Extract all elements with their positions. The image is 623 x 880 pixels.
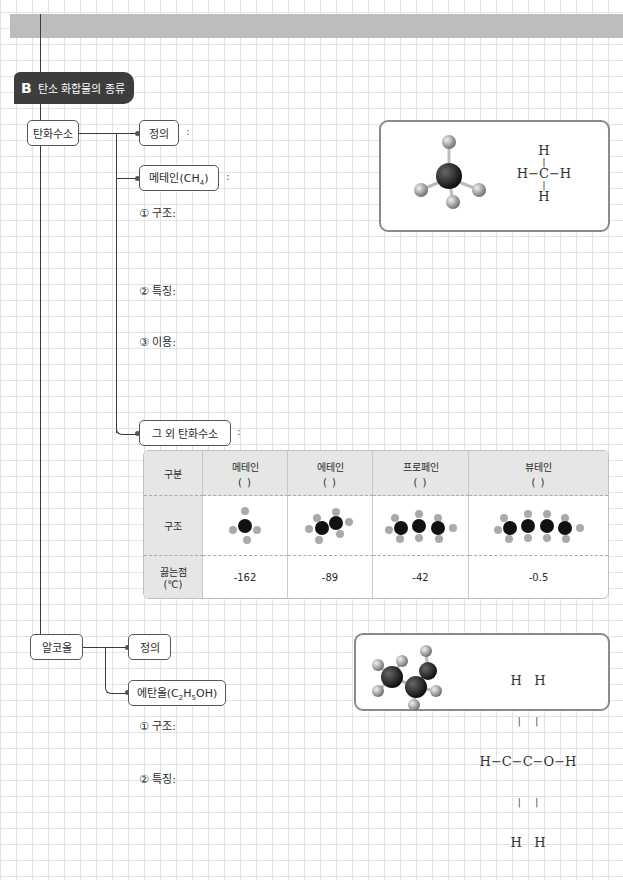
ethanol-ball-stick-icon <box>364 635 464 711</box>
node-other-label: 그 외 탄화수소 <box>152 425 219 441</box>
colon: : <box>186 125 190 138</box>
node-hydrocarbon: 탄화수소 <box>27 120 79 146</box>
colon: : <box>237 425 241 438</box>
node-definition-label: 정의 <box>149 125 169 141</box>
table-col-ethane: 에테인( ) <box>288 451 373 496</box>
node-hydrocarbon-label: 탄화수소 <box>33 125 73 141</box>
butane-model-icon <box>469 496 608 556</box>
connector-curve <box>105 647 128 694</box>
bp-methane: -162 <box>203 556 288 598</box>
item-uses: ③ 이용: <box>139 333 176 349</box>
ethanol-structural-formula: H H | | H−C−C−O−H | | H H <box>468 643 588 880</box>
node-alcohol-def-label: 정의 <box>140 639 160 655</box>
table-boiling-point-row: 끓는점(℃) -162 -89 -42 -0.5 <box>144 556 608 598</box>
bp-ethane: -89 <box>288 556 373 598</box>
item-features: ② 특징: <box>139 282 176 298</box>
connector <box>116 178 137 179</box>
node-methane-label: 메테인(CH4) <box>149 169 208 187</box>
bp-propane: -42 <box>373 556 469 598</box>
section-letter: B <box>21 80 32 96</box>
bp-butane: -0.5 <box>469 556 608 598</box>
methane-model-box: H | H−C−H | H <box>379 120 610 232</box>
item-structure: ① 구조: <box>139 204 176 220</box>
connector-curve <box>116 420 137 435</box>
connector <box>79 133 137 134</box>
node-ethanol-label: 에탄올(C2H5OH) <box>137 684 217 702</box>
node-methane: 메테인(CH4) <box>139 165 219 191</box>
propane-model-icon <box>373 496 469 556</box>
table-header-row: 구분 메테인( ) 에테인( ) 프로페인( ) 뷰테인( ) <box>144 451 608 496</box>
section-header: B 탄소 화합물의 종류 <box>14 72 134 104</box>
node-ethanol: 에탄올(C2H5OH) <box>128 680 226 706</box>
table-col-propane: 프로페인( ) <box>373 451 469 496</box>
colon: : <box>226 170 230 183</box>
ethanol-model-box: H H | | H−C−C−O−H | | H H <box>354 633 610 711</box>
methane-structural-formula: H | H−C−H | H <box>509 142 579 205</box>
item-ethanol-features: ② 특징: <box>139 770 176 786</box>
node-other-hydrocarbons: 그 외 탄화수소 <box>139 420 231 446</box>
node-alcohol-label: 알코올 <box>42 639 72 655</box>
hydrocarbon-comparison-table: 구분 메테인( ) 에테인( ) 프로페인( ) 뷰테인( ) 구조 끓는점(℃… <box>143 450 609 599</box>
trunk-line <box>40 14 41 656</box>
table-structure-row: 구조 <box>144 496 608 556</box>
table-structure-label: 구조 <box>144 496 203 556</box>
table-bp-label: 끓는점(℃) <box>144 556 203 598</box>
methane-model-icon <box>203 496 288 556</box>
node-alcohol: 알코올 <box>30 634 83 660</box>
section-title: 탄소 화합물의 종류 <box>38 80 125 96</box>
node-definition: 정의 <box>139 120 179 146</box>
table-header-label: 구분 <box>144 451 203 496</box>
node-alcohol-definition: 정의 <box>128 634 171 660</box>
ethane-model-icon <box>288 496 373 556</box>
item-ethanol-structure: ① 구조: <box>139 717 176 733</box>
methane-ball-stick-icon <box>389 126 499 226</box>
table-col-methane: 메테인( ) <box>203 451 288 496</box>
top-banner <box>10 14 623 38</box>
table-col-butane: 뷰테인( ) <box>469 451 608 496</box>
